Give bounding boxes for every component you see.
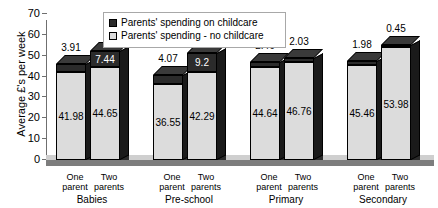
y-tick-mark [42,138,47,139]
x-axis-subcategory: Twoparents [83,172,135,192]
y-tick-label: 20 [28,112,40,122]
bar-column[interactable]: 42.299.2 [187,53,217,160]
y-tick-mark [42,117,47,118]
y-tick: 70 [46,13,47,14]
bar-segment-on-childcare[interactable] [250,62,280,67]
y-tick-label: 50 [28,50,40,60]
legend-item-no-childcare: Parents' spending - no childcare [109,30,280,41]
y-tick-label: 40 [28,71,40,81]
x-axis-labels: OneparentTwoparentsOneparentTwoparentsOn… [46,172,434,208]
x-axis-subcategory: Twoparents [180,172,232,192]
x-axis-subcategory: Twoparents [277,172,329,192]
bar-column[interactable]: 44.64 [250,62,280,160]
legend-label-no-childcare: Parents' spending - no childcare [121,30,264,41]
bar-base-value-label: 46.76 [284,106,314,117]
y-axis-line [46,20,47,166]
x-sub-label-line2: parents [277,182,329,192]
bar-top-value-label: 7.44 [90,54,120,65]
y-tick: 60 [46,34,47,35]
bar-base-value-label: 44.65 [90,108,120,119]
bar-base-value-label: 44.64 [250,108,280,119]
bar-side-face [120,47,129,160]
bar-side-face [411,41,420,160]
bar-base-value-label: 41.98 [56,111,86,122]
y-axis-title: Average £'s per week [15,9,27,159]
bar-column[interactable]: 44.657.44 [90,51,120,160]
y-tick-label: 10 [28,133,40,143]
bar-base-value-label: 45.46 [347,108,377,119]
x-axis-group-label: Primary [231,194,341,205]
y-tick-label: 30 [28,91,40,101]
y-tick: 30 [46,96,47,97]
x-axis-group-label: Secondary [328,194,438,205]
bar-segment-on-childcare[interactable] [56,64,86,72]
bar-base-value-label: 36.55 [153,117,183,128]
chart-container: Average £'s per week 706050403020100 41.… [0,0,438,208]
bar-base-value-label: 42.29 [187,111,217,122]
y-tick-mark [42,55,47,56]
bar-column[interactable]: 53.98 [381,46,411,160]
y-tick-mark [42,96,47,97]
legend-label-on-childcare: Parents' spending on childcare [121,17,257,28]
bar-top-value-label: 3.91 [48,42,94,53]
legend-item-on-childcare: Parents' spending on childcare [109,17,280,28]
bar-side-face [314,53,323,160]
x-sub-label-line2: parents [374,182,426,192]
bar-segment-on-childcare[interactable] [347,61,377,65]
x-sub-label-line1: Two [374,172,426,182]
x-sub-label-line2: parents [83,182,135,192]
bar-top-value-label: 0.45 [373,23,419,34]
bar-top-value-label: 4.07 [145,53,191,64]
y-tick-mark [42,76,47,77]
bar-column[interactable]: 41.98 [56,64,86,160]
x-axis-group-label: Babies [37,194,147,205]
bar-column[interactable]: 36.55 [153,75,183,160]
x-sub-label-line1: Two [277,172,329,182]
legend-swatch-icon-dark [109,19,117,27]
bar-column[interactable]: 46.76 [284,58,314,160]
y-tick-label: 60 [28,29,40,39]
bar-segment-on-childcare[interactable] [381,45,411,47]
chart-legend: Parents' spending on childcare Parents' … [103,12,286,48]
bar-column[interactable]: 45.46 [347,61,377,160]
y-tick: 50 [46,55,47,56]
x-sub-label-line1: Two [83,172,135,182]
x-sub-label-line1: Two [180,172,232,182]
floor-front-face [46,160,434,166]
y-tick-mark [42,13,47,14]
bar-segment-on-childcare[interactable] [153,75,183,83]
bar-top-value-label: 9.2 [187,57,217,68]
y-tick: 20 [46,117,47,118]
y-tick: 10 [46,138,47,139]
bar-base-value-label: 53.98 [381,99,411,110]
x-axis-subcategory: Twoparents [374,172,426,192]
y-tick: 40 [46,76,47,77]
y-tick-label: 70 [28,8,40,18]
x-sub-label-line2: parents [180,182,232,192]
legend-swatch-icon-light [109,32,117,40]
x-axis-group-label: Pre-school [134,194,244,205]
y-tick-mark [42,34,47,35]
y-tick-label: 0 [34,154,40,164]
bar-segment-on-childcare[interactable] [284,58,314,62]
bar-side-face [217,48,226,160]
bar-top-value-label: 1.98 [339,39,385,50]
